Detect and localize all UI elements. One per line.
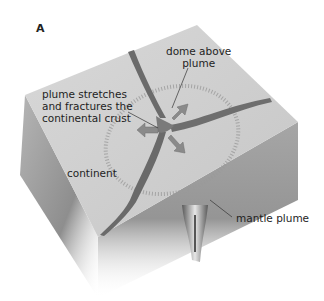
label-dome-above-plume: dome above plume xyxy=(166,45,231,69)
rift-block-diagram xyxy=(0,0,324,301)
label-continent: continent xyxy=(67,167,117,179)
label-mantle-plume: mantle plume xyxy=(236,212,309,224)
panel-label: A xyxy=(36,22,45,35)
label-plume-stretches: plume stretches and fractures the contin… xyxy=(42,88,133,124)
